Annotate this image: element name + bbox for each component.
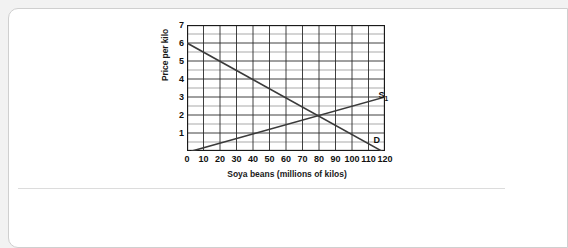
y-tick-3: 3 bbox=[170, 93, 184, 102]
x-tick-120: 120 bbox=[372, 155, 398, 164]
y-tick-5: 5 bbox=[170, 57, 184, 66]
y-tick-4: 4 bbox=[170, 75, 184, 84]
x-axis-tick-labels: 0102030405060708090100110120 bbox=[187, 155, 387, 169]
x-axis-label: Soya beans (millions of kilos) bbox=[172, 169, 402, 179]
supply-curve-label: S1 bbox=[378, 91, 388, 102]
y-tick-7: 7 bbox=[170, 21, 184, 30]
plot-svg bbox=[187, 25, 385, 151]
supply-demand-chart: Price per kilo 1234567 01020304050607080… bbox=[140, 14, 408, 184]
card-divider bbox=[18, 188, 505, 189]
y-axis-tick-labels: 1234567 bbox=[166, 14, 184, 162]
demand-curve-label: D bbox=[373, 136, 380, 145]
plot-area bbox=[187, 25, 385, 151]
y-tick-6: 6 bbox=[170, 39, 184, 48]
y-tick-1: 1 bbox=[170, 129, 184, 138]
y-tick-2: 2 bbox=[170, 111, 184, 120]
